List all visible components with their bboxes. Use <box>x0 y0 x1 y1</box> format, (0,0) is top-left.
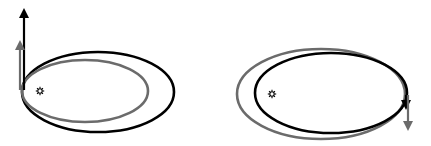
panel-right <box>237 49 413 139</box>
inner-orbit <box>22 60 148 122</box>
outer-orbit <box>22 52 174 132</box>
diagram-canvas <box>0 0 431 146</box>
sun-icon <box>36 87 44 95</box>
panel-left <box>15 8 174 132</box>
sun-icon <box>268 90 276 98</box>
orbit-diagram: Velocity boost at perihelion Velocity ch… <box>0 0 431 146</box>
inner-orbit <box>255 53 407 133</box>
